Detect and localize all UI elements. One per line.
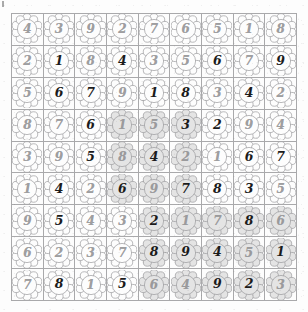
sudoku-cell-r9c1[interactable]: 7 bbox=[12, 269, 44, 301]
sudoku-cell-r2c9[interactable]: 9 bbox=[265, 46, 297, 78]
sudoku-grid[interactable]: 4392765182184356795679183428761532943958… bbox=[11, 13, 297, 301]
sudoku-cell-r6c4[interactable]: 6 bbox=[107, 173, 139, 205]
scan-artifact-speck bbox=[2, 1, 4, 7]
sudoku-cell-r8c5[interactable]: 8 bbox=[139, 237, 171, 269]
sudoku-cell-r8c8[interactable]: 5 bbox=[234, 237, 266, 269]
sudoku-cell-r5c2[interactable]: 9 bbox=[44, 142, 76, 174]
sudoku-cell-r7c2[interactable]: 5 bbox=[44, 205, 76, 237]
sudoku-cell-r8c4[interactable]: 7 bbox=[107, 237, 139, 269]
sudoku-cell-r3c5[interactable]: 1 bbox=[139, 78, 171, 110]
cell-digit: 5 bbox=[86, 150, 95, 163]
sudoku-cell-r6c9[interactable]: 5 bbox=[265, 173, 297, 205]
sudoku-cell-r4c4[interactable]: 1 bbox=[107, 110, 139, 142]
sudoku-cell-r7c5[interactable]: 2 bbox=[139, 205, 171, 237]
sudoku-cell-r7c6[interactable]: 1 bbox=[170, 205, 202, 237]
sudoku-cell-r6c2[interactable]: 4 bbox=[44, 173, 76, 205]
sudoku-cell-r1c1[interactable]: 4 bbox=[12, 14, 44, 46]
sudoku-cell-r8c7[interactable]: 4 bbox=[202, 237, 234, 269]
sudoku-cell-r1c8[interactable]: 1 bbox=[234, 14, 266, 46]
page-root: 4392765182184356795679183428761532943958… bbox=[0, 0, 308, 312]
sudoku-cell-r7c3[interactable]: 4 bbox=[75, 205, 107, 237]
cell-digit: 6 bbox=[276, 214, 284, 226]
sudoku-cell-r7c1[interactable]: 9 bbox=[12, 205, 44, 237]
sudoku-cell-r1c4[interactable]: 2 bbox=[107, 14, 139, 46]
sudoku-cell-r6c7[interactable]: 8 bbox=[202, 173, 234, 205]
sudoku-cell-r4c7[interactable]: 2 bbox=[202, 110, 234, 142]
cell-digit: 9 bbox=[150, 182, 158, 194]
sudoku-cell-r5c9[interactable]: 7 bbox=[265, 142, 297, 174]
sudoku-cell-r3c3[interactable]: 7 bbox=[75, 78, 107, 110]
cell-digit: 1 bbox=[150, 86, 159, 99]
sudoku-cell-r9c5[interactable]: 6 bbox=[139, 269, 171, 301]
sudoku-cell-r1c9[interactable]: 8 bbox=[265, 14, 297, 46]
sudoku-cell-r9c2[interactable]: 8 bbox=[44, 269, 76, 301]
sudoku-cell-r9c9[interactable]: 3 bbox=[265, 269, 297, 301]
sudoku-cell-r1c2[interactable]: 3 bbox=[44, 14, 76, 46]
sudoku-cell-r2c7[interactable]: 6 bbox=[202, 46, 234, 78]
sudoku-cell-r2c2[interactable]: 1 bbox=[44, 46, 76, 78]
cell-digit: 4 bbox=[23, 23, 31, 35]
sudoku-cell-r2c5[interactable]: 3 bbox=[139, 46, 171, 78]
sudoku-cell-r3c6[interactable]: 8 bbox=[170, 78, 202, 110]
sudoku-cell-r8c2[interactable]: 2 bbox=[44, 237, 76, 269]
sudoku-cell-r3c7[interactable]: 3 bbox=[202, 78, 234, 110]
sudoku-cell-r7c9[interactable]: 6 bbox=[265, 205, 297, 237]
sudoku-cell-r4c5[interactable]: 5 bbox=[139, 110, 171, 142]
sudoku-cell-r1c3[interactable]: 9 bbox=[75, 14, 107, 46]
sudoku-cell-r9c4[interactable]: 5 bbox=[107, 269, 139, 301]
sudoku-cell-r9c6[interactable]: 4 bbox=[170, 269, 202, 301]
sudoku-cell-r4c3[interactable]: 6 bbox=[75, 110, 107, 142]
sudoku-cell-r1c7[interactable]: 5 bbox=[202, 14, 234, 46]
sudoku-cell-r5c6[interactable]: 2 bbox=[170, 142, 202, 174]
cell-digit: 4 bbox=[276, 119, 284, 131]
cell-digit: 7 bbox=[276, 150, 285, 163]
sudoku-cell-r5c4[interactable]: 8 bbox=[107, 142, 139, 174]
sudoku-cell-r4c8[interactable]: 9 bbox=[234, 110, 266, 142]
sudoku-cell-r5c7[interactable]: 1 bbox=[202, 142, 234, 174]
cell-digit: 6 bbox=[86, 118, 95, 131]
sudoku-cell-r6c3[interactable]: 2 bbox=[75, 173, 107, 205]
sudoku-cell-r9c8[interactable]: 2 bbox=[234, 269, 266, 301]
sudoku-cell-r8c6[interactable]: 9 bbox=[170, 237, 202, 269]
sudoku-cell-r3c1[interactable]: 5 bbox=[12, 78, 44, 110]
sudoku-cell-r3c9[interactable]: 2 bbox=[265, 78, 297, 110]
sudoku-cell-r5c5[interactable]: 4 bbox=[139, 142, 171, 174]
sudoku-cell-r2c4[interactable]: 4 bbox=[107, 46, 139, 78]
sudoku-cell-r6c8[interactable]: 3 bbox=[234, 173, 266, 205]
sudoku-cell-r7c4[interactable]: 3 bbox=[107, 205, 139, 237]
sudoku-cell-r5c8[interactable]: 6 bbox=[234, 142, 266, 174]
sudoku-cell-r6c6[interactable]: 7 bbox=[170, 173, 202, 205]
sudoku-cell-r3c4[interactable]: 9 bbox=[107, 78, 139, 110]
cell-digit: 5 bbox=[118, 278, 127, 291]
sudoku-cell-r1c6[interactable]: 6 bbox=[170, 14, 202, 46]
sudoku-cell-r7c8[interactable]: 8 bbox=[234, 205, 266, 237]
sudoku-cell-r8c1[interactable]: 6 bbox=[12, 237, 44, 269]
cell-digit: 5 bbox=[276, 182, 284, 194]
sudoku-cell-r6c1[interactable]: 1 bbox=[12, 173, 44, 205]
cell-digit: 7 bbox=[118, 246, 126, 258]
cell-digit: 2 bbox=[23, 55, 31, 67]
sudoku-cell-r9c7[interactable]: 9 bbox=[202, 269, 234, 301]
sudoku-cell-r2c6[interactable]: 5 bbox=[170, 46, 202, 78]
sudoku-cell-r8c3[interactable]: 3 bbox=[75, 237, 107, 269]
sudoku-cell-r6c5[interactable]: 9 bbox=[139, 173, 171, 205]
cell-digit: 1 bbox=[181, 214, 189, 226]
cell-digit: 6 bbox=[181, 23, 189, 35]
sudoku-cell-r3c2[interactable]: 6 bbox=[44, 78, 76, 110]
sudoku-cell-r4c1[interactable]: 8 bbox=[12, 110, 44, 142]
sudoku-cell-r5c1[interactable]: 3 bbox=[12, 142, 44, 174]
sudoku-cell-r7c7[interactable]: 7 bbox=[202, 205, 234, 237]
sudoku-cell-r1c5[interactable]: 7 bbox=[139, 14, 171, 46]
sudoku-cell-r2c1[interactable]: 2 bbox=[12, 46, 44, 78]
sudoku-cell-r2c3[interactable]: 8 bbox=[75, 46, 107, 78]
sudoku-cell-r8c9[interactable]: 1 bbox=[265, 237, 297, 269]
sudoku-cell-r9c3[interactable]: 1 bbox=[75, 269, 107, 301]
sudoku-cell-r4c6[interactable]: 3 bbox=[170, 110, 202, 142]
cell-digit: 9 bbox=[118, 87, 126, 99]
sudoku-cell-r4c9[interactable]: 4 bbox=[265, 110, 297, 142]
sudoku-cell-r4c2[interactable]: 7 bbox=[44, 110, 76, 142]
cell-digit: 6 bbox=[118, 182, 127, 195]
sudoku-cell-r2c8[interactable]: 7 bbox=[234, 46, 266, 78]
sudoku-cell-r5c3[interactable]: 5 bbox=[75, 142, 107, 174]
sudoku-cell-r3c8[interactable]: 4 bbox=[234, 78, 266, 110]
